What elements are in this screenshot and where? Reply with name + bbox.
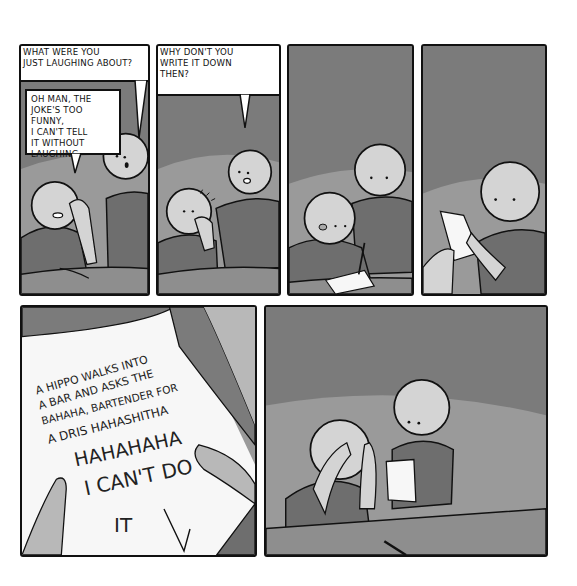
panel-4-art: [423, 46, 545, 294]
bubble-tail: [133, 80, 149, 140]
bubble-tail: [69, 153, 83, 175]
panel-1-art: [21, 46, 148, 294]
comic-panel-3: [287, 44, 414, 296]
comic-panel-6: [264, 305, 548, 557]
speech-bubble-what-were-you: WHAT WERE YOU JUST LAUGHING ABOUT?: [19, 44, 150, 82]
comic-panel-1: WHAT WERE YOU JUST LAUGHING ABOUT? OH MA…: [19, 44, 150, 296]
panel-6-art: [266, 307, 546, 555]
note-line-7: IT: [114, 513, 132, 537]
speech-bubble-jokes-too-funny: OH MAN, THE JOKE'S TOO FUNNY, I CAN'T TE…: [25, 89, 121, 155]
comic-panel-4: [421, 44, 547, 296]
comic-panel-5: A HIPPO WALKS INTO A BAR AND ASKS THE BA…: [20, 305, 257, 557]
panel-3-art: [289, 46, 412, 294]
bubble-tail: [238, 94, 252, 130]
speech-bubble-write-it-down: WHY DON'T YOU WRITE IT DOWN THEN?: [156, 44, 281, 96]
comic-panel-2: WHY DON'T YOU WRITE IT DOWN THEN?: [156, 44, 281, 296]
note-scribble-arrow: [162, 507, 202, 557]
